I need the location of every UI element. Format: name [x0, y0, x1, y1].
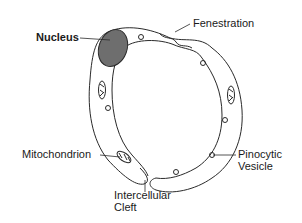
fenestration-leader [175, 24, 190, 32]
right-cell-outer-wall [150, 38, 242, 192]
mitochondrion [228, 86, 235, 104]
intercellular-label-line2: Cleft [114, 201, 137, 214]
pinocytic-vesicle [174, 170, 179, 175]
pinocytic-vesicle [201, 61, 206, 66]
mitochondrion [99, 81, 106, 99]
nucleus [93, 25, 132, 70]
pinocytic-vesicle [106, 106, 111, 111]
pinocytic-vesicle [139, 35, 144, 40]
pinocytic-label-line2: Vesicle [238, 160, 273, 173]
fenestration-label: Fenestration [193, 17, 254, 30]
pinocytic-vesicle [223, 118, 228, 123]
right-cell-inner-wall [156, 44, 222, 179]
nucleus-label: Nucleus [36, 31, 79, 44]
mitochondrion-label: Mitochondrion [22, 148, 91, 161]
capillary-diagram: Nucleus Fenestration Mitochondrion Inter… [0, 0, 302, 223]
